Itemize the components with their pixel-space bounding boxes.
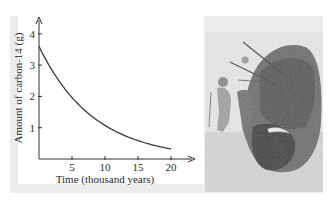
y-axis-title: Amount of carbon-14 (g) <box>12 32 25 143</box>
x-tick-label: 20 <box>166 161 178 173</box>
x-axis-title: Time (thousand years) <box>56 173 155 186</box>
decay-curve <box>39 46 171 149</box>
x-tick-label: 15 <box>133 161 145 173</box>
x-tick-label: 10 <box>100 161 112 173</box>
y-tick-label: 4 <box>30 28 36 40</box>
y-tick-label: 1 <box>30 122 36 134</box>
y-ticks: 1234 <box>30 28 43 134</box>
axes <box>36 17 195 162</box>
y-tick-label: 2 <box>30 90 36 102</box>
x-tick-label: 5 <box>69 161 75 173</box>
bison-hunt-illustration <box>205 32 323 192</box>
y-tick-label: 3 <box>30 59 36 71</box>
